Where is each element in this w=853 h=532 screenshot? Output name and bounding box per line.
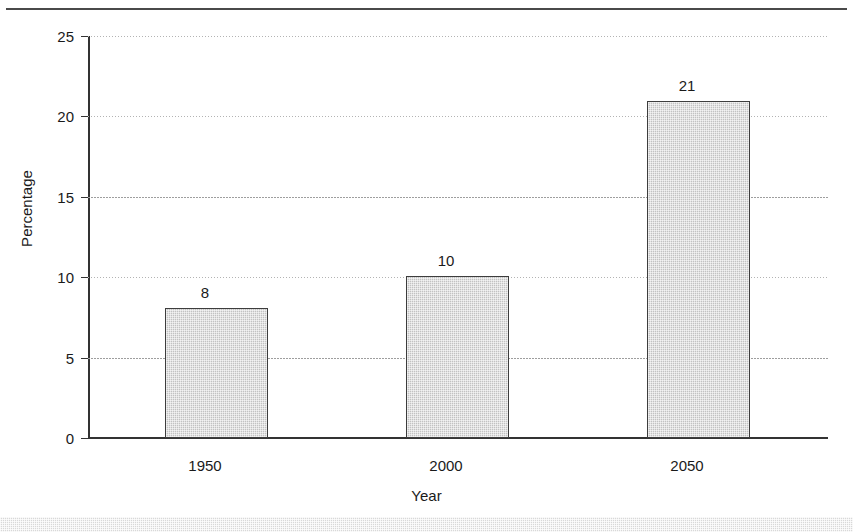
- y-tick-mark-15: [81, 197, 88, 198]
- bar-chart: 25 20 15 10 5 0 Percentage: [0, 0, 853, 517]
- y-tick-label-10: 10: [30, 270, 74, 285]
- bar-2050[interactable]: [647, 101, 750, 438]
- bar-value-2000: 10: [386, 253, 506, 268]
- y-tick-mark-10: [81, 277, 88, 278]
- y-tick-mark-25: [81, 36, 88, 37]
- y-tick-label-15: 15: [30, 190, 74, 205]
- gridline-25: [88, 36, 828, 37]
- bottom-shaded-band: [0, 517, 853, 532]
- page-canvas: 25 20 15 10 5 0 Percentage: [0, 0, 853, 532]
- y-tick-mark-5: [81, 358, 88, 359]
- y-tick-label-5: 5: [30, 351, 74, 366]
- x-axis-title: Year: [0, 487, 853, 504]
- y-tick-label-25: 25: [30, 29, 74, 44]
- x-tick-label-2050: 2050: [617, 458, 757, 473]
- x-tick-label-2000: 2000: [376, 458, 516, 473]
- bar-value-1950: 8: [145, 285, 265, 300]
- bar-value-2050: 21: [627, 78, 747, 93]
- y-tick-label-20: 20: [30, 109, 74, 124]
- plot-area: [88, 36, 828, 438]
- bar-2000[interactable]: [406, 276, 509, 438]
- y-tick-label-0: 0: [30, 431, 74, 446]
- y-axis-title: Percentage: [18, 139, 35, 279]
- y-axis-tick-labels: 25 20 15 10 5 0 Percentage: [0, 0, 76, 517]
- bar-1950[interactable]: [165, 308, 268, 438]
- x-tick-label-1950: 1950: [135, 458, 275, 473]
- y-tick-mark-0: [81, 438, 88, 439]
- y-tick-mark-20: [81, 116, 88, 117]
